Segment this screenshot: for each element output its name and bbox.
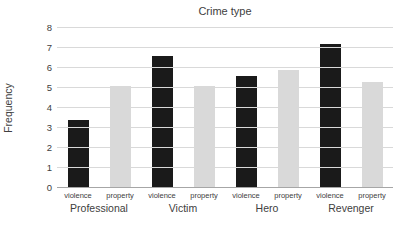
bar-violence-hero	[236, 76, 257, 188]
bar-slot	[309, 28, 351, 188]
y-axis-tick-labels: 012345678	[28, 28, 52, 188]
y-axis-title-text: Frequency	[2, 83, 14, 133]
gridline-y-5	[57, 87, 393, 88]
y-tick-label-4: 4	[28, 103, 52, 113]
bar-property-revenger	[362, 82, 383, 188]
x-group-label-hero: Hero	[225, 202, 309, 214]
bar-property-professional	[110, 86, 131, 188]
x-sub-label-property-hero: property	[267, 191, 309, 200]
x-sub-label-property-revenger: property	[351, 191, 393, 200]
x-group-label-professional: Professional	[57, 202, 141, 214]
y-tick-label-5: 5	[28, 83, 52, 93]
bar-slot	[267, 28, 309, 188]
gridline-y-8	[57, 27, 393, 28]
gridline-y-6	[57, 67, 393, 68]
bar-violence-victim	[152, 56, 173, 188]
x-group-label-revenger: Revenger	[309, 202, 393, 214]
y-tick-label-8: 8	[28, 23, 52, 33]
bar-slot	[99, 28, 141, 188]
x-sub-label-violence-victim: violence	[141, 191, 183, 200]
x-sub-label-violence-revenger: violence	[309, 191, 351, 200]
x-axis-line	[57, 187, 393, 188]
chart-title: Crime type	[57, 5, 393, 17]
x-group-label-victim: Victim	[141, 202, 225, 214]
bar-slot	[225, 28, 267, 188]
gridline-y-2	[57, 147, 393, 148]
y-tick-label-7: 7	[28, 43, 52, 53]
x-axis-sub-labels: violencepropertyviolencepropertyviolence…	[57, 191, 393, 200]
x-sub-label-violence-hero: violence	[225, 191, 267, 200]
y-tick-label-0: 0	[28, 183, 52, 193]
gridline-y-1	[57, 167, 393, 168]
gridline-y-4	[57, 107, 393, 108]
bar-slot	[351, 28, 393, 188]
bar-violence-professional	[68, 120, 89, 188]
bars-container	[57, 28, 393, 188]
x-sub-label-violence-professional: violence	[57, 191, 99, 200]
bar-property-victim	[194, 86, 215, 188]
plot-area	[57, 28, 393, 188]
y-tick-label-2: 2	[28, 143, 52, 153]
bar-chart: Crime type Frequency 012345678 violencep…	[0, 0, 399, 232]
y-axis-title: Frequency	[0, 28, 15, 188]
gridline-y-3	[57, 127, 393, 128]
x-sub-label-property-professional: property	[99, 191, 141, 200]
y-tick-label-3: 3	[28, 123, 52, 133]
gridline-y-7	[57, 47, 393, 48]
bar-slot	[57, 28, 99, 188]
x-sub-label-property-victim: property	[183, 191, 225, 200]
bar-slot	[183, 28, 225, 188]
x-axis-group-labels: ProfessionalVictimHeroRevenger	[57, 202, 393, 214]
y-tick-label-1: 1	[28, 163, 52, 173]
bar-slot	[141, 28, 183, 188]
y-tick-label-6: 6	[28, 63, 52, 73]
